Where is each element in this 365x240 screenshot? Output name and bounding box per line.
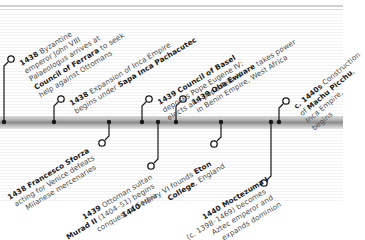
connector-eton-college bbox=[211, 120, 223, 147]
connector-council-basel bbox=[140, 96, 152, 124]
connector-francesco-sforza bbox=[99, 120, 111, 146]
connector-machu-picchu bbox=[277, 98, 289, 124]
connector-byzantine bbox=[2, 56, 14, 124]
connector-murad-ii bbox=[148, 120, 160, 169]
connector-inca-expansion bbox=[52, 96, 64, 124]
